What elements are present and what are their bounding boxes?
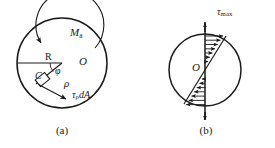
label-radius-R: R bbox=[45, 52, 52, 62]
label-angle-phi: φ bbox=[55, 66, 61, 76]
caption-panel-a: (a) bbox=[44, 124, 80, 136]
panel-a bbox=[17, 0, 107, 108]
panel-b bbox=[169, 22, 241, 120]
label-tau-max: τmax bbox=[217, 7, 232, 18]
label-center-o-a: O bbox=[79, 56, 87, 67]
stress-arrows-lower bbox=[186, 79, 205, 105]
label-rho: ρ bbox=[64, 78, 69, 89]
torque-arc-arrow bbox=[36, 0, 104, 48]
label-point-c: C bbox=[35, 71, 42, 81]
angle-arc-phi bbox=[50, 63, 53, 71]
shear-force-arrow bbox=[39, 85, 67, 100]
label-shear-force-element: τρdA bbox=[72, 90, 90, 101]
caption-panel-b: (b) bbox=[188, 124, 224, 136]
label-applied-moment: Ma bbox=[70, 27, 83, 39]
label-center-o-b: O bbox=[192, 62, 200, 73]
stress-arrows-upper bbox=[205, 36, 223, 62]
